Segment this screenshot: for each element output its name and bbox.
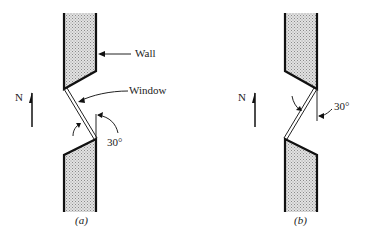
upper-wall-b: [285, 13, 317, 89]
swing-arrowhead-a: [76, 123, 81, 128]
wall-callout: Wall: [98, 47, 156, 59]
window-pane-b: [284, 88, 317, 139]
caption-b: (b): [294, 214, 307, 227]
angle-arrowhead-b: [318, 113, 324, 119]
north-label-b: N: [238, 91, 246, 103]
angle-arrow-a: [98, 115, 118, 133]
north-arrow-a: N: [15, 91, 32, 127]
lower-wall-a: [64, 139, 96, 212]
north-arrowhead-b: [252, 92, 255, 103]
angle-arrowhead-a: [97, 112, 103, 118]
caption-a: (a): [75, 214, 88, 227]
north-arrow-b: N: [238, 91, 255, 127]
window-callout: Window: [78, 84, 166, 103]
angle-label-b: 30°: [334, 100, 349, 112]
upper-wall-a: [64, 13, 96, 89]
angle-label-a: 30°: [107, 136, 122, 148]
window-orientation-diagram: 30° Wall Window N (a): [0, 0, 369, 240]
window-label: Window: [129, 84, 166, 96]
wall-label: Wall: [135, 47, 156, 59]
lower-wall-b: [285, 139, 317, 212]
figure-b: 30° N (b): [238, 13, 349, 227]
north-label-a: N: [15, 91, 23, 103]
figure-a: 30° Wall Window N (a): [15, 13, 166, 227]
